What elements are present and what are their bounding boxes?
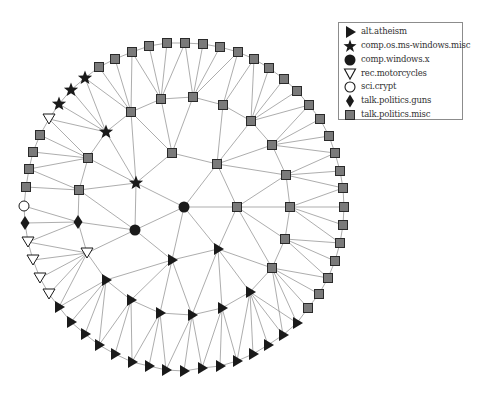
edge xyxy=(217,145,272,164)
edge xyxy=(185,43,193,97)
edge xyxy=(26,187,79,190)
edge xyxy=(87,230,135,253)
edge xyxy=(192,308,222,315)
edge xyxy=(237,207,285,239)
talk-politics-misc-node xyxy=(339,221,348,230)
talk-politics-misc-node xyxy=(199,40,208,49)
talk-politics-misc-node xyxy=(268,264,277,273)
talk-politics-misc-node xyxy=(163,39,172,48)
talk-politics-misc-node xyxy=(127,108,136,117)
edge xyxy=(251,105,309,121)
talk-politics-misc-node xyxy=(250,55,259,64)
edge xyxy=(217,105,223,164)
edge xyxy=(160,313,166,370)
talk-politics-misc-node xyxy=(234,48,243,57)
talk-politics-misc-node xyxy=(305,101,314,110)
filled-diamond-icon xyxy=(343,94,357,108)
edge xyxy=(290,207,340,243)
talk-politics-misc-node xyxy=(145,42,154,51)
talk-politics-misc-node xyxy=(36,131,45,140)
edge xyxy=(79,183,136,190)
edge xyxy=(285,239,328,278)
legend-item-comp-windows-x: comp.windows.x xyxy=(339,53,462,67)
talk-politics-misc-node xyxy=(181,39,190,48)
talk-politics-misc-node xyxy=(304,304,313,313)
talk-politics-misc-node xyxy=(168,149,177,158)
edge xyxy=(217,164,286,175)
edge xyxy=(28,222,78,242)
legend-item-comp-os-ms-windows-misc: comp.os.ms-windows.misc xyxy=(339,39,462,53)
talk-politics-misc-node xyxy=(265,64,274,73)
alt-atheism-node xyxy=(249,348,259,360)
edge xyxy=(25,222,78,223)
nodes-layer xyxy=(19,39,349,378)
edge xyxy=(49,119,88,158)
talk-politics-misc-node xyxy=(336,167,345,176)
filled-right-triangle-icon xyxy=(343,25,357,39)
edge xyxy=(131,52,132,112)
edge xyxy=(192,315,202,368)
edge xyxy=(272,105,309,145)
alt-atheism-node xyxy=(55,301,65,313)
edge xyxy=(161,99,172,153)
talk-politics-misc-node xyxy=(111,55,120,64)
talk-politics-misc-node xyxy=(128,48,137,57)
edge xyxy=(29,158,88,169)
rec-motorcycles-node xyxy=(34,273,46,283)
edge xyxy=(40,253,87,278)
alt-atheism-node xyxy=(128,356,138,368)
edge xyxy=(172,153,217,164)
filled-circle-icon xyxy=(343,53,357,67)
talk-politics-misc-node xyxy=(293,87,302,96)
talk-politics-misc-node xyxy=(340,203,349,212)
edge xyxy=(237,175,286,207)
alt-atheism-node xyxy=(81,328,91,340)
edge xyxy=(132,52,161,99)
talk-politics-misc-node xyxy=(325,132,334,141)
edge xyxy=(237,207,272,268)
alt-atheism-node xyxy=(246,286,256,298)
edge xyxy=(192,249,218,315)
edge xyxy=(286,175,343,188)
edge xyxy=(135,207,184,230)
talk-politics-guns-node xyxy=(74,215,83,229)
alt-atheism-node xyxy=(95,339,105,351)
edge xyxy=(251,59,254,121)
edge xyxy=(218,249,272,268)
rec-motorcycles-node xyxy=(43,289,55,299)
talk-politics-misc-node xyxy=(336,239,345,248)
edge xyxy=(172,207,184,260)
edge xyxy=(131,112,136,183)
edge xyxy=(135,230,172,260)
edge xyxy=(250,292,283,335)
talk-politics-misc-node xyxy=(331,257,340,266)
rec-motorcycles-node xyxy=(43,114,55,124)
legend-label: sci.crypt xyxy=(361,81,396,91)
edge xyxy=(251,79,284,121)
talk-politics-misc-node xyxy=(22,183,31,192)
talk-politics-misc-node xyxy=(282,171,291,180)
talk-politics-misc-node xyxy=(219,101,228,110)
rec-motorcycles-node xyxy=(22,237,34,247)
edge xyxy=(237,292,250,361)
edge xyxy=(218,207,237,249)
edge xyxy=(99,300,131,345)
comp-os-ms-windows-misc-node xyxy=(64,83,78,97)
edge xyxy=(28,242,87,253)
rec-motorcycles-node xyxy=(27,255,39,265)
alt-atheism-node xyxy=(214,243,224,255)
edge xyxy=(193,52,238,97)
edge xyxy=(71,90,106,132)
edge xyxy=(272,145,335,153)
edge xyxy=(222,292,250,308)
edge xyxy=(218,249,250,292)
alt-atheism-node xyxy=(198,362,208,374)
alt-atheism-node xyxy=(293,317,303,329)
legend-item-talk-politics-misc: talk.politics.misc xyxy=(339,108,462,122)
edge xyxy=(33,152,88,158)
sci-crypt-node xyxy=(19,201,29,211)
edge xyxy=(172,260,192,315)
rec-motorcycles-node xyxy=(81,248,93,258)
legend-label: alt.atheism xyxy=(361,26,407,36)
edge xyxy=(193,47,220,97)
